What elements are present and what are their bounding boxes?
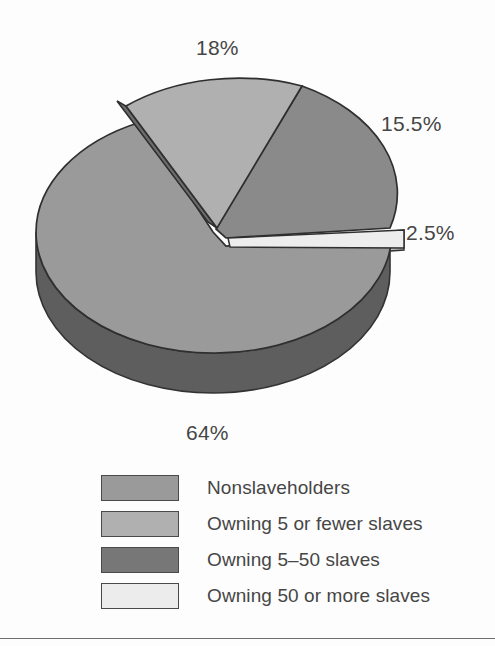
- slice-label-15-5-percent: 15.5%: [381, 112, 442, 136]
- legend-item-5-or-fewer: Owning 5 or fewer slaves: [101, 506, 461, 542]
- legend-item-50-or-more: Owning 50 or more slaves: [101, 578, 461, 614]
- chart-legend: Nonslaveholders Owning 5 or fewer slaves…: [101, 470, 461, 614]
- legend-label-5-or-fewer: Owning 5 or fewer slaves: [207, 513, 423, 535]
- legend-label-5-to-50: Owning 5–50 slaves: [207, 549, 380, 571]
- pie-chart-figure: 18% 15.5% 2.5% 64% Nonslaveholders Ownin…: [0, 0, 495, 646]
- slice-label-64-percent: 64%: [186, 421, 229, 445]
- legend-item-nonslaveholders: Nonslaveholders: [101, 470, 461, 506]
- slice-label-2-5-percent: 2.5%: [406, 221, 455, 245]
- pie-chart-graphic: 18% 15.5% 2.5% 64%: [0, 0, 495, 460]
- legend-swatch-50-or-more: [101, 583, 179, 609]
- figure-bottom-rule: [0, 638, 495, 639]
- legend-label-50-or-more: Owning 50 or more slaves: [207, 585, 430, 607]
- legend-swatch-5-or-fewer: [101, 511, 179, 537]
- legend-label-nonslaveholders: Nonslaveholders: [207, 477, 350, 499]
- slice-label-18-percent: 18%: [196, 36, 239, 60]
- legend-swatch-nonslaveholders: [101, 475, 179, 501]
- legend-item-5-to-50: Owning 5–50 slaves: [101, 542, 461, 578]
- legend-swatch-5-to-50: [101, 547, 179, 573]
